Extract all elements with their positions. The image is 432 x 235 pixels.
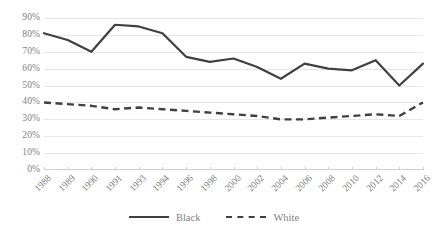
x-tick-mark — [399, 167, 400, 170]
x-tick-label: 2008 — [310, 173, 337, 200]
x-tick-label: 2016 — [405, 173, 432, 200]
x-tick-label: 1989 — [50, 173, 77, 200]
x-tick-label: 2002 — [239, 173, 266, 200]
x-tick-label: 1996 — [168, 173, 195, 200]
x-tick-label: 1998 — [192, 173, 219, 200]
x-tick-mark — [210, 167, 211, 170]
x-tick-mark — [68, 167, 69, 170]
x-axis-tick-labels: 1988198919901991199319941996199820002002… — [44, 170, 423, 206]
x-tick-mark — [91, 167, 92, 170]
series-line-black — [44, 25, 423, 86]
x-tick-mark — [186, 167, 187, 170]
legend-item-black[interactable]: Black — [129, 212, 201, 223]
x-tick-label: 2014 — [382, 173, 409, 200]
x-tick-mark — [352, 167, 353, 170]
x-tick-label: 1991 — [97, 173, 124, 200]
x-tick-mark — [328, 167, 329, 170]
x-tick-mark — [139, 167, 140, 170]
series-lines — [44, 18, 423, 170]
y-tick-label: 40% — [22, 98, 40, 108]
x-tick-label: 1994 — [145, 173, 172, 200]
y-tick-label: 20% — [22, 131, 40, 141]
x-tick-label: 2006 — [287, 173, 314, 200]
legend-label-white: White — [273, 212, 299, 223]
x-tick-mark — [162, 167, 163, 170]
x-tick-label: 1990 — [74, 173, 101, 200]
x-tick-label: 2000 — [216, 173, 243, 200]
y-axis-tick-labels: 90%80%70%60%50%40%30%20%10%0% — [0, 0, 44, 172]
x-tick-mark — [234, 167, 235, 170]
legend-swatch-white-icon — [226, 216, 266, 218]
x-tick-mark — [115, 167, 116, 170]
x-tick-mark — [44, 167, 45, 170]
y-tick-label: 50% — [22, 81, 40, 91]
y-tick-label: 80% — [22, 30, 40, 40]
legend-label-black: Black — [176, 212, 201, 223]
x-tick-label: 1988 — [26, 173, 53, 200]
y-tick-label: 70% — [22, 47, 40, 57]
plot-area — [44, 18, 423, 170]
x-tick-mark — [305, 167, 306, 170]
y-tick-label: 30% — [22, 115, 40, 125]
x-tick-mark — [281, 167, 282, 170]
series-line-white — [44, 102, 423, 119]
x-tick-label: 1993 — [121, 173, 148, 200]
x-tick-label: 2004 — [263, 173, 290, 200]
y-tick-label: 10% — [22, 148, 40, 158]
y-tick-label: 0% — [27, 165, 40, 175]
y-tick-label: 90% — [22, 13, 40, 23]
x-tick-mark — [423, 167, 424, 170]
x-tick-label: 2012 — [358, 173, 385, 200]
legend-swatch-black-icon — [129, 216, 169, 218]
chart-legend: Black White — [0, 206, 428, 228]
x-tick-mark — [376, 167, 377, 170]
legend-item-white[interactable]: White — [226, 212, 299, 223]
x-tick-mark — [257, 167, 258, 170]
x-tick-label: 2010 — [334, 173, 361, 200]
y-tick-label: 60% — [22, 64, 40, 74]
